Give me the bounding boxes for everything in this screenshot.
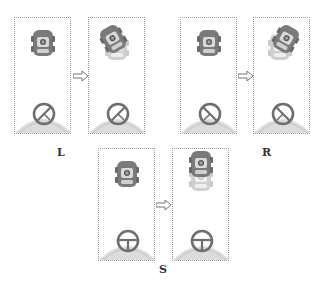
steering-wheel-left-icon <box>31 101 57 127</box>
steering-wheel-straight-icon <box>189 228 215 254</box>
steering-wheel-straight-icon <box>115 228 141 254</box>
steering-wheel-right-icon <box>197 101 223 127</box>
car-icon <box>115 159 139 189</box>
label-r: R <box>262 146 271 159</box>
car-icon <box>31 28 55 58</box>
car-straight-icon <box>189 149 213 179</box>
frame-r-after <box>253 17 310 134</box>
frame-l-after <box>88 17 145 134</box>
arrow-icon <box>156 200 172 210</box>
arrow-icon <box>238 71 254 81</box>
car-icon <box>197 28 221 58</box>
steering-wheel-left-icon <box>105 101 131 127</box>
label-s: S <box>159 263 167 276</box>
frame-r-before <box>180 17 237 134</box>
label-l: L <box>57 146 65 159</box>
frame-l-before <box>14 17 71 134</box>
steering-wheel-right-icon <box>270 101 296 127</box>
arrow-icon <box>73 71 89 81</box>
frame-s-after <box>172 148 229 261</box>
frame-s-before <box>98 148 155 261</box>
